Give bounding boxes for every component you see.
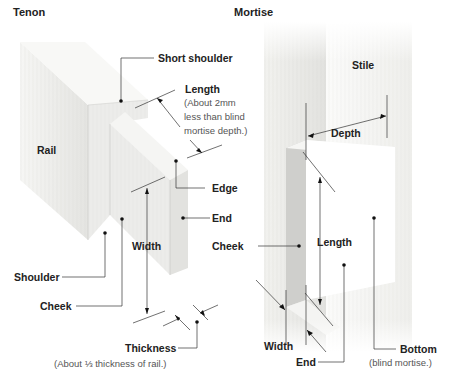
label-depth: Depth xyxy=(331,127,361,139)
label-mortise-cheek: Cheek xyxy=(212,240,244,252)
label-thickness: Thickness xyxy=(125,342,176,354)
label-thickness-note: (About ⅓ thickness of rail.) xyxy=(54,357,166,370)
label-end: End xyxy=(212,212,232,224)
label-rail: Rail xyxy=(37,144,56,156)
label-length-note-2: less than blind xyxy=(184,110,245,123)
label-length-note-3: mortise depth.) xyxy=(184,124,247,137)
label-mortise-end: End xyxy=(296,356,316,368)
mortise-title: Mortise xyxy=(234,6,273,18)
label-width: Width xyxy=(132,240,161,252)
label-bottom-note: (blind mortise.) xyxy=(369,356,432,369)
tenon-end-face xyxy=(170,170,188,275)
label-shoulder: Shoulder xyxy=(14,271,60,283)
label-length-note-1: (About 2mm xyxy=(184,96,236,109)
label-mortise-width: Width xyxy=(264,340,293,352)
label-length: Length xyxy=(185,83,220,95)
tenon-title: Tenon xyxy=(13,6,45,18)
label-bottom: Bottom xyxy=(400,343,437,355)
label-stile: Stile xyxy=(352,59,374,71)
label-mortise-length: Length xyxy=(317,236,352,248)
label-edge: Edge xyxy=(212,182,238,194)
label-short-shoulder: Short shoulder xyxy=(158,52,233,64)
tenon-illustration xyxy=(20,42,188,275)
label-cheek: Cheek xyxy=(40,300,72,312)
